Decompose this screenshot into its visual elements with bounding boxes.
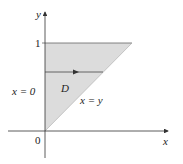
diagonal-boundary-label: x = y [79,94,103,106]
y-tick-label: 1 [35,37,41,49]
x-axis-label: x [162,135,168,147]
region-label: D [60,82,69,94]
left-boundary-label: x = 0 [11,85,36,97]
origin-label: 0 [35,134,41,146]
y-axis-label: y [35,8,41,20]
region-diagram: y x 0 1 D x = 0 x = y [0,0,183,164]
